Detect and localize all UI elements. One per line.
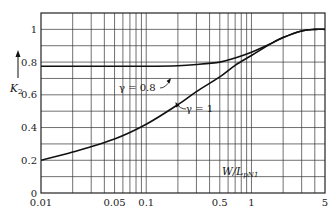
x-tick-label: 0.5: [212, 197, 228, 208]
k2-vs-w-over-l-chart: 0.010.050.10.515 00.20.40.60.81 K2 W/LpN…: [0, 0, 335, 217]
x-axis-ticks: 0.010.050.10.515: [30, 197, 328, 208]
y-tick-label: 1: [31, 24, 37, 35]
y-axis-ticks: 00.20.40.60.81: [21, 24, 37, 199]
x-axis-label-sub: pN1: [243, 171, 258, 179]
y-tick-label: 0: [31, 188, 37, 199]
grid-lines: [41, 13, 325, 193]
y-tick-label: 0.8: [21, 57, 37, 68]
x-tick-label: 0.1: [138, 197, 154, 208]
x-tick-label: 5: [322, 197, 328, 208]
arrowhead-icon: [16, 50, 21, 57]
x-axis-label-main: W/L: [222, 165, 243, 177]
y-axis-label-sub: 2: [18, 87, 23, 96]
y-tick-label: 0.6: [21, 89, 37, 100]
x-axis-label: W/LpN1: [222, 165, 258, 179]
annotation-gamma-0.8-text: γ = 0.8: [119, 82, 156, 93]
y-tick-label: 0.2: [21, 155, 37, 166]
x-tick-label: 0.05: [103, 197, 125, 208]
svg-text:K2: K2: [9, 82, 23, 96]
annotation-gamma-1: γ = 1: [176, 102, 214, 114]
annotation-gamma-0.8: γ = 0.8: [119, 78, 171, 93]
plot-frame: [41, 13, 325, 193]
y-tick-label: 0.4: [21, 122, 37, 133]
curve-series-0: [41, 29, 325, 66]
x-tick-label: 1: [248, 197, 254, 208]
x-tick-label: 0.01: [30, 197, 52, 208]
annotation-gamma-1-text: γ = 1: [186, 103, 213, 114]
